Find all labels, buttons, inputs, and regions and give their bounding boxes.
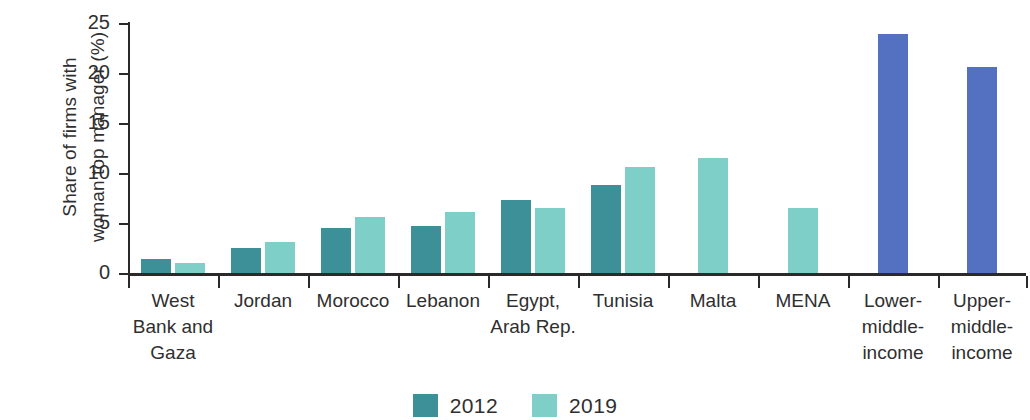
x-axis-tick xyxy=(128,276,130,288)
y-axis-line xyxy=(128,22,130,273)
y-axis-tick: 5 xyxy=(119,223,130,225)
legend-item: 2012 xyxy=(413,394,498,417)
bar xyxy=(698,158,728,273)
x-axis-category-label: Lower- middle- income xyxy=(842,288,944,366)
x-axis-category-label: Egypt, Arab Rep. xyxy=(482,288,584,340)
bar xyxy=(788,208,818,273)
plot-area: 0510152025 xyxy=(128,14,1026,276)
bar xyxy=(265,242,295,273)
x-axis-tick xyxy=(938,276,940,288)
x-axis-tick xyxy=(218,276,220,288)
x-axis-category-label: MENA xyxy=(752,288,854,314)
x-axis-tick xyxy=(668,276,670,288)
legend-item: 2019 xyxy=(532,394,617,417)
y-axis-tick-label: 0 xyxy=(64,261,110,283)
x-axis-category-label: West Bank and Gaza xyxy=(122,288,224,366)
y-axis-tick-label: 20 xyxy=(64,61,110,83)
bar xyxy=(591,185,621,273)
x-axis-category-label: Tunisia xyxy=(572,288,674,314)
legend-label: 2019 xyxy=(569,394,617,417)
y-axis-tick: 10 xyxy=(119,173,130,175)
x-axis-category-label: Malta xyxy=(662,288,764,314)
bar xyxy=(231,248,261,273)
x-axis-category-label: Jordan xyxy=(212,288,314,314)
x-axis-category-labels: West Bank and GazaJordanMoroccoLebanonEg… xyxy=(128,288,1026,380)
x-axis-tick xyxy=(398,276,400,288)
bar xyxy=(878,34,908,273)
chart-legend: 20122019 xyxy=(0,390,1030,420)
legend-swatch xyxy=(413,394,438,417)
bar xyxy=(501,200,531,273)
x-axis-tick xyxy=(848,276,850,288)
y-axis-tick-label: 5 xyxy=(64,211,110,233)
bar xyxy=(355,217,385,273)
legend-label: 2012 xyxy=(450,394,498,417)
y-axis-tick-label: 25 xyxy=(64,11,110,33)
x-axis-tick xyxy=(1026,276,1028,288)
y-axis-title: Share of firms with woman top manager (%… xyxy=(0,0,64,280)
x-axis-tick xyxy=(488,276,490,288)
x-axis-line xyxy=(128,273,1026,276)
x-axis-tick xyxy=(578,276,580,288)
bar xyxy=(535,208,565,273)
bar-chart: Share of firms with woman top manager (%… xyxy=(0,0,1030,420)
y-axis-tick-label: 15 xyxy=(64,111,110,133)
bar xyxy=(625,167,655,273)
bar xyxy=(967,67,997,273)
bar xyxy=(411,226,441,273)
bar xyxy=(445,212,475,273)
x-axis-category-label: Upper- middle- income xyxy=(932,288,1030,366)
bar xyxy=(175,263,205,273)
x-axis-tick xyxy=(758,276,760,288)
x-axis-category-label: Lebanon xyxy=(392,288,494,314)
legend-swatch xyxy=(532,394,557,417)
bar xyxy=(141,259,171,273)
y-axis-tick: 20 xyxy=(119,73,130,75)
y-axis-tick-label: 10 xyxy=(64,161,110,183)
y-axis-tick: 15 xyxy=(119,123,130,125)
y-axis-tick: 25 xyxy=(119,23,130,25)
x-axis-category-label: Morocco xyxy=(302,288,404,314)
bar xyxy=(321,228,351,273)
x-axis-tick xyxy=(308,276,310,288)
